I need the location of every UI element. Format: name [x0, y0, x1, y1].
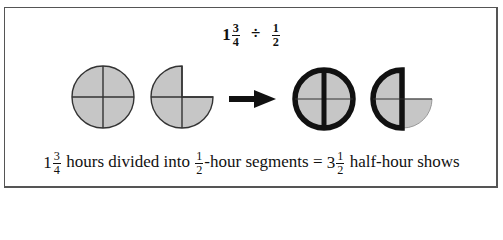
- numerator: 3: [53, 150, 61, 164]
- arrow-right-icon: [229, 90, 276, 108]
- caption-text-shows: half-hour shows: [350, 152, 460, 171]
- fraction-three-quarters: 3 4: [53, 150, 61, 177]
- full-circle-halves-icon: [295, 68, 353, 130]
- whole-part: 3: [327, 153, 336, 173]
- fraction-one-half: 1 2: [195, 150, 203, 177]
- three-quarter-circle-icon: [151, 66, 213, 128]
- mixed-number-hours: 1 3 4: [43, 150, 62, 177]
- whole-part: 1: [43, 153, 52, 173]
- numerator: 1: [195, 150, 203, 164]
- caption: 1 3 4 hours divided into 1 2 -hour segme…: [0, 150, 503, 177]
- fraction-one-half: 1 2: [336, 150, 344, 177]
- denominator: 2: [195, 164, 203, 177]
- full-circle-icon: [72, 66, 134, 128]
- denominator: 2: [336, 164, 344, 177]
- caption-text-segments: -hour segments =: [204, 152, 322, 171]
- caption-text-divided: hours divided into: [66, 152, 190, 171]
- denominator: 4: [53, 164, 61, 177]
- mixed-number-result: 3 1 2: [327, 150, 346, 177]
- half-plus-quarter-icon: [373, 70, 432, 128]
- numerator: 1: [336, 150, 344, 164]
